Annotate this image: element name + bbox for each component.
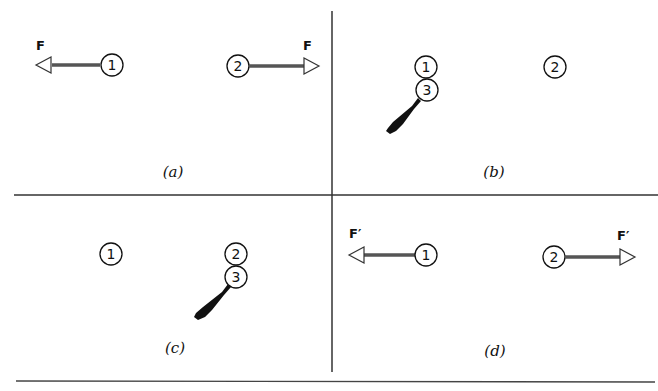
arrowhead-left-icon [349,247,364,263]
node-1: 1 [415,56,437,78]
probe-handle-icon [194,284,231,320]
svg-text:2: 2 [550,249,559,265]
panel-caption: (a) [163,163,184,181]
force-arrow-right [565,249,635,265]
force-arrow-left [36,57,100,73]
panel-caption: (c) [165,339,185,357]
force-arrow-left [349,247,415,263]
node-1: 1 [100,243,122,265]
arrowhead-right-icon [620,249,635,265]
probe-handle-icon [386,98,421,134]
node-1: 1 [101,54,123,76]
node-3: 3 [416,79,438,101]
node-3: 3 [225,266,247,288]
svg-text:2: 2 [232,246,241,262]
force-label: F [36,38,45,53]
node-2: 2 [227,55,249,77]
svg-text:1: 1 [107,246,116,262]
svg-text:2: 2 [234,58,243,74]
node-2: 2 [544,56,566,78]
node-2: 2 [225,243,247,265]
force-label: F′ [349,226,362,241]
panel-b: 1 3 2 (b) [386,56,566,181]
panel-a: F 1 2 F (a) [36,38,319,181]
svg-text:1: 1 [108,57,117,73]
force-label: F [303,38,312,53]
bottom-rule [16,381,655,382]
panel-d: F′ 1 2 F′ (d) [349,226,635,360]
force-arrow-right [249,58,319,74]
panel-caption: (b) [483,163,504,181]
node-1: 1 [415,244,437,266]
svg-text:3: 3 [232,269,241,285]
arrowhead-right-icon [304,58,319,74]
node-2: 2 [543,246,565,268]
svg-text:1: 1 [422,59,431,75]
figure-canvas: F 1 2 F (a) 1 3 2 (b) [0,0,658,391]
svg-text:1: 1 [422,247,431,263]
arrowhead-left-icon [36,57,51,73]
panel-c: 1 2 3 (c) [100,243,247,357]
svg-text:2: 2 [551,59,560,75]
svg-text:3: 3 [423,82,432,98]
panel-caption: (d) [484,342,505,360]
force-label: F′ [617,228,630,243]
